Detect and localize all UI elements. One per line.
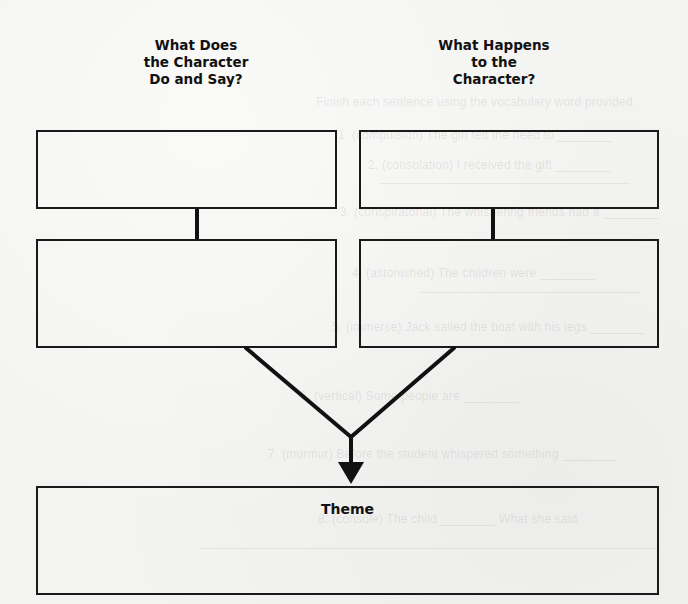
theme-box[interactable]: Theme: [36, 486, 659, 595]
theme-label: Theme: [38, 501, 657, 517]
right-diagonal-line: [351, 348, 454, 437]
arrow-down-icon: [338, 462, 364, 484]
worksheet-page: Finish each sentence using the vocabular…: [0, 0, 688, 604]
left-diagonal-line: [246, 348, 351, 437]
